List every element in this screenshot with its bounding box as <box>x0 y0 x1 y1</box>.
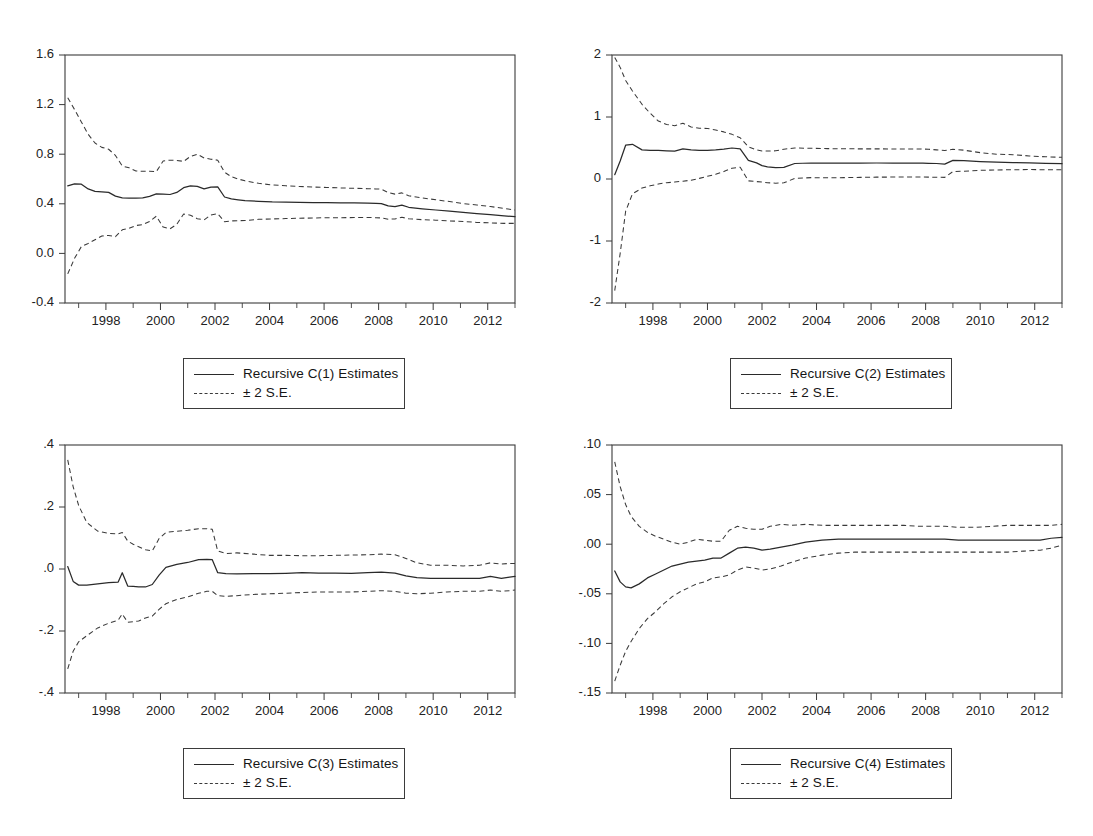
legend-row-estimate: Recursive C(3) Estimates <box>194 754 392 773</box>
series-line-estimate <box>68 184 515 217</box>
dashed-line-key-icon <box>194 777 234 789</box>
chart-panel-c4: -.15-.10-.05.00.05.101998200020022004200… <box>547 390 1093 808</box>
x-tick-label: 2010 <box>966 313 995 328</box>
x-tick-label: 2006 <box>310 313 339 328</box>
series-line-estimate <box>615 537 1062 588</box>
y-tick-label: .10 <box>583 436 601 451</box>
series-line-se-band <box>615 462 1062 544</box>
chart-panel-c1: -0.40.00.40.81.21.6199820002002200420062… <box>0 0 546 418</box>
x-tick-label: 2004 <box>802 703 831 718</box>
series-line-se-band <box>615 545 1062 681</box>
legend-row-se: ± 2 S.E. <box>194 773 392 792</box>
y-tick-label: 0.0 <box>36 245 54 260</box>
dashed-line-key-icon <box>741 777 781 789</box>
y-tick-label: 1.2 <box>36 96 54 111</box>
y-tick-label: 2 <box>594 46 601 61</box>
x-tick-label: 2002 <box>748 313 777 328</box>
series-line-se-band <box>68 214 515 274</box>
legend-row-estimate: Recursive C(2) Estimates <box>741 364 939 383</box>
y-tick-label: -.15 <box>579 684 601 699</box>
plot-frame <box>612 445 1062 693</box>
y-tick-label: -.10 <box>579 635 601 650</box>
legend-label-estimate: Recursive C(3) Estimates <box>243 756 398 771</box>
solid-line-key-icon <box>741 758 781 770</box>
plot-frame <box>65 445 515 693</box>
legend-label-estimate: Recursive C(2) Estimates <box>790 366 945 381</box>
y-tick-label: -0.4 <box>32 294 54 309</box>
x-tick-label: 2004 <box>255 313 284 328</box>
x-tick-label: 2006 <box>310 703 339 718</box>
y-tick-label: -.05 <box>579 585 601 600</box>
x-tick-label: 1998 <box>638 313 667 328</box>
x-tick-label: 2008 <box>911 313 940 328</box>
series-line-estimate <box>615 144 1062 174</box>
x-tick-label: 2010 <box>966 703 995 718</box>
x-tick-label: 1998 <box>91 703 120 718</box>
legend-c3: Recursive C(3) Estimates± 2 S.E. <box>183 748 405 799</box>
y-tick-label: 0 <box>594 170 601 185</box>
plot-area-c1: -0.40.00.40.81.21.6199820002002200420062… <box>0 0 546 330</box>
legend-c4: Recursive C(4) Estimates± 2 S.E. <box>730 748 952 799</box>
legend-label-se: ± 2 S.E. <box>790 775 839 790</box>
x-tick-label: 2010 <box>419 703 448 718</box>
y-tick-label: 1.6 <box>36 46 54 61</box>
x-tick-label: 2000 <box>693 703 722 718</box>
plot-frame <box>612 55 1062 303</box>
y-tick-label: -2 <box>589 294 601 309</box>
x-tick-label: 2010 <box>419 313 448 328</box>
x-tick-label: 2012 <box>473 703 502 718</box>
y-tick-label: 1 <box>594 108 601 123</box>
plot-area-c2: -2-101219982000200220042006200820102012 <box>547 0 1093 330</box>
x-tick-label: 2012 <box>473 313 502 328</box>
x-tick-label: 2002 <box>201 313 230 328</box>
series-line-se-band <box>68 460 515 566</box>
x-tick-label: 2000 <box>693 313 722 328</box>
y-tick-label: 0.4 <box>36 195 54 210</box>
series-line-se-band <box>68 590 515 669</box>
legend-row-se: ± 2 S.E. <box>741 773 939 792</box>
solid-line-key-icon <box>741 368 781 380</box>
x-tick-label: 2008 <box>364 313 393 328</box>
chart-panel-c2: -2-101219982000200220042006200820102012R… <box>547 0 1093 418</box>
x-tick-label: 2000 <box>146 703 175 718</box>
solid-line-key-icon <box>194 368 234 380</box>
series-line-se-band <box>615 57 1062 157</box>
x-tick-label: 2004 <box>255 703 284 718</box>
legend-label-estimate: Recursive C(1) Estimates <box>243 366 398 381</box>
x-tick-label: 2002 <box>201 703 230 718</box>
y-tick-label: .2 <box>43 498 54 513</box>
y-tick-label: .4 <box>43 436 54 451</box>
y-tick-label: -1 <box>589 232 601 247</box>
x-tick-label: 2012 <box>1020 703 1049 718</box>
solid-line-key-icon <box>194 758 234 770</box>
x-tick-label: 1998 <box>638 703 667 718</box>
x-tick-label: 1998 <box>91 313 120 328</box>
x-tick-label: 2006 <box>857 703 886 718</box>
x-tick-label: 2008 <box>364 703 393 718</box>
y-tick-label: .00 <box>583 536 601 551</box>
legend-row-estimate: Recursive C(1) Estimates <box>194 364 392 383</box>
y-tick-label: -.4 <box>39 684 54 699</box>
plot-frame <box>65 55 515 303</box>
series-line-se-band <box>615 167 1062 290</box>
chart-panel-c3: -.4-.2.0.2.41998200020022004200620082010… <box>0 390 546 808</box>
x-tick-label: 2012 <box>1020 313 1049 328</box>
series-line-se-band <box>68 98 515 210</box>
x-tick-label: 2004 <box>802 313 831 328</box>
legend-label-estimate: Recursive C(4) Estimates <box>790 756 945 771</box>
x-tick-label: 2006 <box>857 313 886 328</box>
x-tick-label: 2002 <box>748 703 777 718</box>
legend-row-estimate: Recursive C(4) Estimates <box>741 754 939 773</box>
plot-area-c4: -.15-.10-.05.00.05.101998200020022004200… <box>547 390 1093 720</box>
x-tick-label: 2008 <box>911 703 940 718</box>
plot-area-c3: -.4-.2.0.2.41998200020022004200620082010… <box>0 390 546 720</box>
figure-sheet: -0.40.00.40.81.21.6199820002002200420062… <box>0 0 1093 836</box>
y-tick-label: -.2 <box>39 622 54 637</box>
y-tick-label: .05 <box>583 486 601 501</box>
x-tick-label: 2000 <box>146 313 175 328</box>
legend-label-se: ± 2 S.E. <box>243 775 292 790</box>
y-tick-label: .0 <box>43 560 54 575</box>
series-line-estimate <box>68 559 515 587</box>
y-tick-label: 0.8 <box>36 146 54 161</box>
